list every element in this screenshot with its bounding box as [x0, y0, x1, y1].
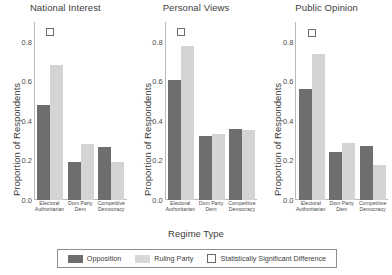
legend-item-opposition: Opposition	[68, 254, 121, 263]
bar-ruling-party	[50, 65, 63, 200]
bar-ruling-party	[81, 144, 94, 200]
x-tick-line: Democracy	[357, 206, 388, 212]
y-tick-labels: 0.0 0.2 0.4 0.6 0.8	[12, 0, 32, 226]
bar-opposition	[329, 152, 342, 200]
chart-legend: Opposition Ruling Party Statistically Si…	[57, 249, 337, 268]
significance-marker-icon	[308, 29, 316, 37]
legend-open-square-icon	[207, 254, 216, 263]
bar-ruling-party	[342, 143, 355, 200]
bar-ruling-party	[373, 165, 386, 200]
x-tick-electoral-authoritarian: Electoral Authoritarian	[295, 200, 326, 222]
legend-swatch-icon	[68, 255, 83, 263]
x-tick-dom-party-dem: Dom Party Dem	[326, 200, 357, 222]
bar-opposition	[98, 147, 111, 200]
bar-ruling-party	[312, 54, 325, 200]
y-tick-4: 0.8	[152, 37, 162, 46]
x-tick-labels: Electoral Authoritarian Dom Party Dem Co…	[34, 200, 127, 222]
y-tick-3: 0.6	[283, 77, 293, 86]
x-tick-labels: Electoral Authoritarian Dom Party Dem Co…	[165, 200, 258, 222]
bar-groups	[296, 22, 388, 200]
y-tick-labels: 0.0 0.2 0.4 0.6 0.8	[273, 0, 293, 226]
legend-item-significance: Statistically Significant Difference	[207, 254, 326, 263]
bar-group	[357, 22, 388, 200]
x-tick-electoral-authoritarian: Electoral Authoritarian	[165, 200, 196, 222]
bar-group	[35, 22, 66, 200]
bar-group	[96, 22, 127, 200]
bar-ruling-party	[212, 134, 225, 200]
x-tick-line: Authoritarian	[295, 206, 326, 212]
x-tick-dom-party-dem: Dom Party Dem	[196, 200, 227, 222]
y-tick-0: 0.0	[152, 196, 162, 205]
y-tick-2: 0.4	[283, 116, 293, 125]
bar-opposition	[168, 80, 181, 200]
bar-ruling-party	[181, 46, 194, 200]
x-tick-line: Authoritarian	[165, 206, 196, 212]
plot-area	[165, 22, 258, 200]
x-tick-line: Dem	[65, 206, 96, 212]
bar-opposition	[199, 136, 212, 200]
x-tick-dom-party-dem: Dom Party Dem	[65, 200, 96, 222]
bar-opposition	[299, 89, 312, 200]
bar-opposition	[229, 129, 242, 200]
legend-item-ruling-party: Ruling Party	[135, 254, 193, 263]
bar-groups	[35, 22, 127, 200]
y-tick-2: 0.4	[152, 116, 162, 125]
panel-personal-views: Personal Views Proportion of Respondents…	[131, 0, 262, 226]
bar-opposition	[68, 162, 81, 200]
x-tick-line: Democracy	[96, 206, 127, 212]
bar-group	[166, 22, 197, 200]
significance-marker-icon	[177, 28, 185, 36]
x-tick-line: Dem	[196, 206, 227, 212]
bar-group	[66, 22, 97, 200]
bar-opposition	[37, 105, 50, 200]
x-tick-competitive-democracy: Competitive Democracy	[226, 200, 257, 222]
x-tick-line: Dem	[326, 206, 357, 212]
bar-group	[227, 22, 258, 200]
plot-area	[34, 22, 127, 200]
bar-group	[196, 22, 227, 200]
x-tick-competitive-democracy: Competitive Democracy	[96, 200, 127, 222]
y-tick-0: 0.0	[283, 196, 293, 205]
y-tick-labels: 0.0 0.2 0.4 0.6 0.8	[143, 0, 163, 226]
y-tick-3: 0.6	[152, 77, 162, 86]
plot-area	[295, 22, 388, 200]
x-axis-label: Regime Type	[0, 228, 392, 239]
bar-ruling-party	[242, 130, 255, 200]
bar-groups	[166, 22, 258, 200]
y-tick-1: 0.2	[283, 156, 293, 165]
bar-group	[327, 22, 358, 200]
y-tick-4: 0.8	[22, 37, 32, 46]
y-tick-1: 0.2	[152, 156, 162, 165]
bar-ruling-party	[111, 162, 124, 200]
chart-figure: National Interest Proportion of Responde…	[0, 0, 392, 275]
panels-row: National Interest Proportion of Responde…	[0, 0, 392, 226]
x-tick-labels: Electoral Authoritarian Dom Party Dem Co…	[295, 200, 388, 222]
y-tick-4: 0.8	[283, 37, 293, 46]
x-tick-line: Authoritarian	[34, 206, 65, 212]
legend-label: Statistically Significant Difference	[220, 254, 326, 263]
panel-national-interest: National Interest Proportion of Responde…	[0, 0, 131, 226]
bar-group	[296, 22, 327, 200]
legend-label: Opposition	[87, 254, 121, 263]
legend-label: Ruling Party	[154, 254, 193, 263]
x-tick-line: Democracy	[226, 206, 257, 212]
bar-opposition	[360, 146, 373, 200]
panel-public-opinion: Public Opinion Proportion of Respondents…	[261, 0, 392, 226]
x-tick-competitive-democracy: Competitive Democracy	[357, 200, 388, 222]
legend-swatch-icon	[135, 255, 150, 263]
y-tick-1: 0.2	[22, 156, 32, 165]
y-tick-3: 0.6	[22, 77, 32, 86]
y-tick-0: 0.0	[22, 196, 32, 205]
x-tick-electoral-authoritarian: Electoral Authoritarian	[34, 200, 65, 222]
y-tick-2: 0.4	[22, 116, 32, 125]
significance-marker-icon	[46, 28, 54, 36]
